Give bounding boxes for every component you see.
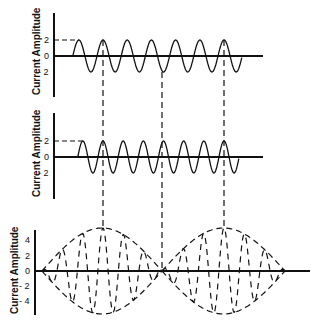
tick-label: - 2 (19, 281, 30, 291)
beat-diagram: Current Amplitude 2 0 - 2 Current Amplit… (0, 0, 321, 332)
tick-label: 2 (44, 35, 49, 45)
tick-label: - 2 (38, 67, 49, 77)
panel-wave-1: Current Amplitude 2 0 - 2 (31, 7, 263, 97)
tick-label: 2 (25, 251, 30, 261)
tick-label: 0 (44, 51, 49, 61)
alignment-lines (103, 40, 224, 271)
y-axis-label: Current Amplitude (31, 109, 42, 197)
y-axis-label: Current Amplitude (31, 7, 42, 95)
tick-label: - 2 (38, 168, 49, 178)
panel-sum: Current Amplitude 4 2 0 - 2 - 4 (9, 226, 310, 315)
tick-label: - 4 (19, 296, 30, 306)
tick-label: 0 (25, 266, 30, 276)
tick-label: 2 (44, 136, 49, 146)
tick-label: 4 (25, 235, 30, 245)
panel-wave-2: Current Amplitude 2 0 - 2 (31, 109, 263, 199)
tick-label: 0 (44, 152, 49, 162)
